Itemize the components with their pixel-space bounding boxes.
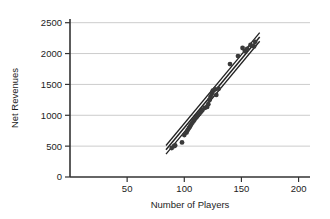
data-point <box>253 39 258 44</box>
plot-area: 05001000150020002500 50100150200 Number … <box>0 0 330 219</box>
x-tick-label: 200 <box>291 183 307 194</box>
x-axis-tick-labels: 50100150200 <box>122 183 307 194</box>
data-point <box>216 86 221 91</box>
y-tick-label: 500 <box>46 141 62 152</box>
y-tick-label: 2000 <box>41 48 62 59</box>
scatter-chart: 05001000150020002500 50100150200 Number … <box>0 0 330 219</box>
x-tick-label: 50 <box>122 183 133 194</box>
data-point <box>236 54 241 59</box>
y-axis-title: Net Revenues <box>9 68 20 128</box>
data-point <box>252 44 257 49</box>
y-tick-label: 2500 <box>41 17 62 28</box>
y-axis-tick-labels: 05001000150020002500 <box>41 17 62 182</box>
y-tick-label: 1500 <box>41 79 62 90</box>
x-tick-label: 150 <box>234 183 250 194</box>
x-axis-title: Number of Players <box>151 199 230 210</box>
data-point <box>173 143 178 148</box>
data-point <box>180 140 185 145</box>
data-point <box>245 47 250 52</box>
y-tick-label: 1000 <box>41 110 62 121</box>
y-tick-label: 0 <box>57 171 62 182</box>
x-tick-label: 100 <box>176 183 192 194</box>
data-point <box>214 93 219 98</box>
data-point <box>228 62 233 67</box>
confidence-band-line <box>166 41 260 154</box>
